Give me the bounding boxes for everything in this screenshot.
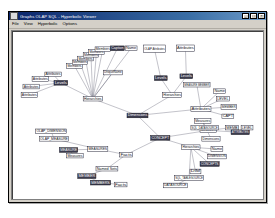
node-label: LEVEL bbox=[242, 126, 253, 130]
node-label: CONCEPT bbox=[151, 136, 169, 140]
node-label: CAPT bbox=[223, 114, 234, 118]
node-label: OLAP Attributes bbox=[144, 47, 165, 51]
graph-node[interactable]: CONCEPT bbox=[151, 136, 170, 141]
graph-node[interactable]: OLAP_DIMENSION bbox=[36, 129, 67, 134]
graph-node[interactable]: OLAP Attributes bbox=[143, 45, 165, 52]
node-label: OLAP_DIMENSION bbox=[36, 129, 66, 133]
graph-node[interactable]: DIMENSION bbox=[207, 154, 226, 159]
node-label: DATASOURCE bbox=[164, 183, 187, 187]
graph-node[interactable]: MEASURES bbox=[88, 147, 108, 152]
graph-edge bbox=[138, 115, 161, 137]
graph-node[interactable]: Measures bbox=[195, 119, 212, 124]
graph-node[interactable]: Attributes bbox=[45, 72, 62, 77]
graph-node[interactable]: DATASOURCE bbox=[164, 183, 188, 188]
graph-node[interactable]: ATTRIBUTES bbox=[231, 130, 249, 135]
menu-view[interactable]: View bbox=[24, 21, 33, 27]
graph-node[interactable]: LEVEL bbox=[241, 125, 253, 130]
maximize-button[interactable]: □ bbox=[250, 13, 257, 19]
graph-node[interactable]: Dimensions bbox=[127, 113, 148, 118]
node-label: Hierarchies bbox=[84, 97, 103, 101]
node-label: MEMBER bbox=[78, 174, 95, 178]
node-label: Attributes bbox=[177, 46, 195, 50]
node-label: Attributes bbox=[33, 77, 49, 81]
node-label: Levels bbox=[181, 74, 193, 78]
graph-node[interactable]: MEMBERS bbox=[90, 180, 110, 185]
node-label: Attributes bbox=[24, 84, 40, 88]
node-label: MEMB bbox=[226, 126, 238, 130]
node-label: Name bbox=[212, 147, 223, 151]
graph-node[interactable]: Caption bbox=[111, 46, 125, 51]
graph-node[interactable]: Hierarchies bbox=[83, 96, 102, 101]
graph-canvas[interactable]: DimensionsHierarchiesLevelsAttributesAtt… bbox=[11, 30, 264, 200]
graph-node[interactable]: Facts bbox=[120, 152, 133, 157]
graph-node[interactable]: MEASURE MEMBER bbox=[184, 82, 210, 87]
graph-node[interactable]: Attributes bbox=[32, 77, 49, 82]
node-label: MEMBER bbox=[222, 105, 236, 109]
graph-node[interactable]: SQL_DATASOURCE bbox=[191, 125, 218, 130]
graph-node[interactable]: SQL_TABLESOURCE bbox=[174, 176, 203, 181]
menu-options[interactable]: Options bbox=[63, 21, 77, 27]
node-label: Hierarchies bbox=[182, 145, 200, 149]
node-label: Measures bbox=[195, 119, 211, 123]
node-label: Name bbox=[214, 89, 225, 93]
menu-bar: File View Hyperbolic Options bbox=[9, 20, 266, 29]
title-bar[interactable]: Graphs OLAP SQL - Hyperbolic Viewer _ □ … bbox=[9, 12, 266, 20]
graph-node[interactable]: Name bbox=[125, 46, 137, 51]
graph-node[interactable]: LEVEL bbox=[216, 96, 229, 101]
node-label: SQL_DATASOURCE bbox=[192, 126, 218, 130]
graph-edge bbox=[93, 73, 113, 99]
graph-node[interactable]: Facts bbox=[114, 182, 127, 187]
node-label: Hierarchies bbox=[163, 93, 182, 97]
graph-edge bbox=[185, 48, 186, 76]
node-label: ATTRIBUTES bbox=[232, 130, 249, 134]
graph-node[interactable]: Named Sets bbox=[96, 166, 118, 171]
node-label: DIM bbox=[191, 169, 200, 173]
graph-node[interactable]: Attributes bbox=[191, 107, 211, 112]
graph-edge bbox=[91, 55, 93, 99]
graph-node[interactable]: Measures bbox=[67, 153, 84, 158]
graph-node[interactable]: UniqueName bbox=[103, 70, 122, 75]
application-window: Graphs OLAP SQL - Hyperbolic Viewer _ □ … bbox=[8, 11, 267, 203]
node-label: SQL_TABLESOURCE bbox=[175, 176, 203, 180]
menu-file[interactable]: File bbox=[12, 21, 19, 27]
graph-node[interactable]: Hierarchies bbox=[182, 145, 200, 150]
node-label: Caption bbox=[111, 46, 124, 50]
node-label: CONCEPTS bbox=[201, 162, 219, 166]
graph-node[interactable]: Hierarchies bbox=[163, 93, 182, 98]
graph-node[interactable]: Levels bbox=[54, 80, 68, 85]
node-label: DIMENSION bbox=[208, 154, 226, 158]
node-label: UniqueName bbox=[104, 70, 122, 74]
graph-node[interactable]: CAPT bbox=[222, 114, 234, 119]
graph-node[interactable]: Levels bbox=[180, 74, 193, 79]
minimize-button[interactable]: _ bbox=[242, 13, 249, 19]
graph-node[interactable]: MEMB bbox=[226, 125, 239, 130]
graph-edge bbox=[154, 49, 160, 78]
graph-node[interactable]: Members bbox=[95, 47, 111, 52]
node-label: Dimensions bbox=[203, 137, 221, 141]
node-label: Name bbox=[126, 46, 137, 50]
graph-node[interactable]: Attributes bbox=[176, 45, 195, 52]
graph-node[interactable]: CONCEPTS bbox=[200, 162, 219, 167]
graph-node[interactable]: Attributes bbox=[21, 93, 38, 98]
graph-node[interactable]: Name bbox=[214, 89, 226, 94]
node-label: Facts bbox=[120, 153, 132, 157]
node-label: MEMBERS bbox=[91, 181, 110, 185]
graph-node[interactable]: MEMBER bbox=[221, 105, 237, 110]
node-label: Attributes bbox=[22, 93, 38, 97]
graph-edge bbox=[197, 85, 201, 109]
graph-node[interactable]: MEMBER bbox=[78, 174, 96, 179]
graph-node[interactable]: DIM bbox=[190, 169, 201, 174]
node-label: Levels bbox=[155, 76, 167, 80]
hyperbolic-tree[interactable]: DimensionsHierarchiesLevelsAttributesAtt… bbox=[12, 31, 263, 199]
close-button[interactable]: × bbox=[258, 13, 265, 19]
menu-hyperbolic[interactable]: Hyperbolic bbox=[38, 21, 58, 27]
graph-node[interactable]: Attributes bbox=[23, 84, 40, 89]
graph-node[interactable]: OLAP_MEASURE bbox=[39, 136, 68, 141]
node-label: Levels bbox=[55, 81, 68, 85]
graph-node[interactable]: Dimensions bbox=[202, 136, 220, 141]
node-label: Named Sets bbox=[97, 167, 118, 171]
node-label: Measures bbox=[67, 154, 83, 158]
graph-node[interactable]: Name bbox=[211, 147, 223, 152]
graph-node[interactable]: MEASURE bbox=[59, 148, 77, 153]
graph-node[interactable]: Levels bbox=[154, 76, 167, 81]
